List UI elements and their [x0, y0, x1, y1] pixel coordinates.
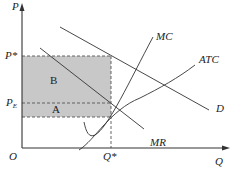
monopoly-diagram: P Q O P* PE Q* B A MC ATC D MR: [0, 0, 231, 177]
q-star-label: Q*: [103, 150, 117, 162]
origin-label: O: [9, 150, 17, 162]
mc-label: MC: [155, 30, 173, 42]
mr-label: MR: [149, 136, 166, 148]
region-b-label: B: [50, 74, 57, 86]
x-axis-label: Q: [215, 155, 223, 167]
p-e-label: PE: [5, 96, 18, 110]
x-axis-arrow-icon: [222, 146, 230, 151]
y-axis-label: P: [11, 0, 19, 12]
shaded-region: [22, 56, 111, 117]
y-axis-arrow-icon: [20, 3, 25, 11]
demand-label: D: [215, 102, 224, 114]
region-a-label: A: [52, 103, 60, 115]
atc-label: ATC: [198, 53, 219, 65]
p-star-label: P*: [4, 49, 18, 61]
